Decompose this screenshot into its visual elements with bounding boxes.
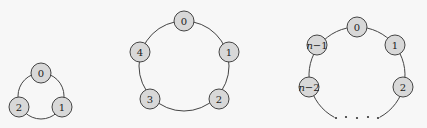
cycle-5-graph: 01234	[130, 11, 239, 111]
ellipsis-dot	[345, 116, 347, 118]
node-label: 0	[38, 68, 44, 79]
graph-node: 2	[393, 77, 413, 97]
ellipsis-dot	[335, 117, 337, 119]
graph-node: n−2	[298, 77, 319, 97]
node-label: 2	[216, 94, 222, 105]
ellipsis-dot	[356, 117, 358, 119]
cycle-n-graph: 012n−1n−2	[298, 17, 413, 119]
node-label: n−2	[298, 82, 319, 93]
graph-node: 0	[347, 17, 367, 37]
ellipsis-dot	[367, 116, 369, 118]
diagram-svg: 01201234012n−1n−2	[0, 0, 427, 128]
graph-node: 0	[174, 11, 194, 31]
graph-node: 4	[130, 42, 150, 62]
graph-node: 0	[31, 63, 51, 83]
graph-node: n−1	[306, 35, 327, 55]
node-label: 2	[400, 82, 406, 93]
node-label: 3	[147, 94, 153, 105]
node-label: 1	[59, 102, 65, 113]
node-label: 1	[226, 47, 232, 58]
cycle-graphs-figure: 01201234012n−1n−2	[0, 0, 427, 128]
graph-node: 2	[209, 89, 229, 109]
cycle-3-graph: 012	[9, 63, 72, 119]
graph-node: 3	[140, 89, 160, 109]
node-label: 4	[137, 47, 143, 58]
graph-node: 1	[52, 97, 72, 117]
node-label: 2	[16, 102, 22, 113]
graph-node: 1	[219, 42, 239, 62]
graph-node: 2	[9, 97, 29, 117]
ellipsis-dot	[377, 117, 379, 119]
node-label: 0	[181, 16, 187, 27]
node-label: 1	[392, 40, 398, 51]
node-label: n−1	[306, 40, 327, 51]
graph-node: 1	[385, 35, 405, 55]
node-label: 0	[354, 22, 360, 33]
